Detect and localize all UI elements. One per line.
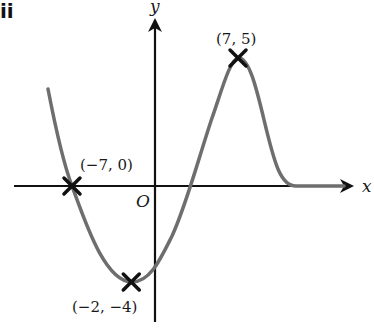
function-graph: ii x y O (−7, 0) (−2, −4) (7, 5) <box>0 0 374 328</box>
origin-label: O <box>136 191 150 211</box>
point-label-maximum: (7, 5) <box>216 30 256 48</box>
point-label-x-intercept: (−7, 0) <box>80 156 133 174</box>
y-axis-label: y <box>149 0 160 16</box>
point-label-minimum: (−2, −4) <box>72 298 137 316</box>
maximum-marker <box>230 50 246 66</box>
x-axis-label: x <box>362 176 372 196</box>
corner-mark: ii <box>0 0 14 23</box>
